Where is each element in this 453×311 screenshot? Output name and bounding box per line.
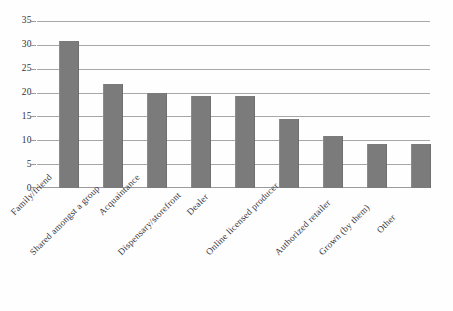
gridline-25 xyxy=(37,69,430,70)
x-label-other: Other xyxy=(375,213,397,235)
y-tick-label: 0 xyxy=(8,184,32,194)
y-tick-label: 30 xyxy=(8,40,32,50)
y-tick-label: 25 xyxy=(8,64,32,74)
y-tick-label: 35 xyxy=(8,16,32,26)
bar-shared-amongst-a-group[interactable] xyxy=(103,84,123,188)
y-tick-label: 15 xyxy=(8,112,32,122)
y-tick-mark xyxy=(30,187,36,188)
gridline-10 xyxy=(37,140,430,141)
bar-authorized-retailer[interactable] xyxy=(323,136,343,188)
gridline-20 xyxy=(37,93,430,94)
y-tick-mark xyxy=(30,69,36,70)
y-tick-mark xyxy=(30,21,36,22)
gridline-35 xyxy=(37,21,430,22)
y-tick-mark xyxy=(30,116,36,117)
bar-other[interactable] xyxy=(411,144,431,188)
y-tick-mark xyxy=(30,93,36,94)
x-label-dispensary-storefront: Dispensary/storefront xyxy=(116,191,183,258)
x-label-authorized-retailer: Authorized retailer xyxy=(273,198,332,257)
bar-online-licensed-producer[interactable] xyxy=(279,119,299,188)
x-label-dealer: Dealer xyxy=(185,192,210,217)
x-label-shared-amongst-a-group: Shared amongst a group xyxy=(28,184,101,257)
y-tick-mark xyxy=(30,45,36,46)
bar-grown-by-them[interactable] xyxy=(367,144,387,188)
y-tick-label: 5 xyxy=(8,160,32,170)
x-label-grown-by-them: Grown (by them) xyxy=(317,203,371,257)
bar-chart-figure: 35 30 25 20 15 10 5 0 Family/friend Shar… xyxy=(0,0,453,311)
y-tick-label: 20 xyxy=(8,88,32,98)
bar-acquaintance[interactable] xyxy=(147,93,167,188)
bar-dispensary-storefront[interactable] xyxy=(191,96,211,188)
gridline-15 xyxy=(37,116,430,117)
y-tick-label: 10 xyxy=(8,136,32,146)
bar-dealer[interactable] xyxy=(235,96,255,188)
y-tick-mark xyxy=(30,164,36,165)
bar-family-friend[interactable] xyxy=(59,41,79,188)
y-tick-mark xyxy=(30,140,36,141)
plot-area xyxy=(37,21,430,188)
x-label-online-licensed-producer: Online licensed producer xyxy=(204,181,280,257)
gridline-30 xyxy=(37,45,430,46)
